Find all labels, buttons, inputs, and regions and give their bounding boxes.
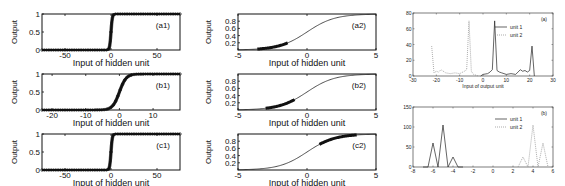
y-axis-label: Output [204, 139, 213, 164]
x-tick-label: 2 [512, 168, 515, 174]
x-tick-label: 30 [550, 77, 556, 83]
x-tick-label: 5 [374, 51, 379, 60]
y-axis-label: Output [204, 79, 213, 104]
y-tick-label: 0.5 [29, 88, 41, 97]
plot-frame [413, 13, 553, 76]
y-tick-label: 20 [406, 57, 412, 63]
y-axis-label: Output [10, 19, 19, 44]
x-axis-label: Input of hidden unit [73, 178, 150, 186]
data-point-cluster [319, 135, 356, 144]
x-tick-label: -5 [234, 171, 242, 180]
x-tick-label: 50 [153, 171, 162, 180]
x-tick-label: 20 [527, 77, 533, 83]
sigmoid-curve [238, 134, 376, 170]
panel-c1: -5005000.51Input of hidden unitOutput(c1… [10, 130, 181, 186]
plot-frame [413, 107, 553, 167]
x-axis-label: Input of hidden unit [269, 58, 346, 68]
x-tick-label: 6 [552, 168, 555, 174]
y-tick-label: 50 [406, 144, 412, 150]
y-tick-label: 0 [36, 106, 41, 115]
panel-b1: -20-1001000.51Input of hidden unitOutput… [10, 70, 181, 128]
x-axis-label: Input of output unit [462, 83, 504, 89]
x-axis-label: Input of hidden unit [269, 118, 346, 128]
y-tick-label: 0.5 [29, 28, 41, 37]
panel-label: (c1) [156, 141, 170, 150]
y-axis-label: Output [10, 79, 19, 104]
y-tick-label: 80 [406, 10, 412, 16]
y-tick-label: 40 [406, 42, 412, 48]
panel-a1: -5005000.51Input of hidden unitOutput(a1… [10, 10, 181, 68]
panel-label: (c2) [352, 141, 366, 150]
x-tick-label: -5 [234, 51, 242, 60]
data-curve [42, 74, 180, 110]
x-tick-label: -5 [234, 111, 242, 120]
series-unit-2 [518, 125, 548, 167]
panel-a2: -5050.20.40.60.8Input of hidden unitOutp… [204, 14, 379, 68]
legend-entry: unit 2 [510, 124, 522, 130]
panel-a: -30-20-100102030020406080Input of output… [406, 10, 556, 89]
x-tick-label: 5 [374, 171, 379, 180]
x-tick-label: 5 [374, 111, 379, 120]
series-unit-1 [423, 125, 463, 167]
y-tick-label: 0 [409, 164, 412, 170]
plot-frame [42, 74, 180, 110]
x-axis-label: Input of hidden unit [73, 58, 150, 68]
x-tick-label: 10 [504, 77, 510, 83]
x-tick-label: 10 [149, 111, 158, 120]
y-axis-label: Output [204, 19, 213, 44]
x-tick-label: -50 [59, 51, 71, 60]
y-tick-label: 1 [36, 10, 41, 19]
sigmoid-curve [238, 74, 376, 110]
data-point-cluster [266, 100, 295, 109]
series-unit-2 [432, 21, 479, 76]
y-tick-label: 150 [403, 104, 412, 110]
panel-b: -8-6-4-20246050100150(b)unit 1unit 2 [403, 104, 554, 174]
x-axis-label: Input of hidden unit [269, 178, 346, 186]
y-tick-label: 1 [36, 130, 41, 139]
panel-label: (a2) [352, 21, 367, 30]
panel-label: (b2) [352, 81, 367, 90]
series-unit-1 [481, 21, 535, 76]
y-tick-label: 0 [409, 73, 412, 79]
panel-label: (b1) [156, 81, 171, 90]
sigmoid-curve [238, 14, 376, 50]
x-tick-label: 4 [532, 168, 535, 174]
panel-label: (b) [541, 110, 547, 116]
y-tick-label: 0.8 [225, 77, 237, 86]
panel-c2: -5050.20.40.60.8Input of hidden unitOutp… [204, 134, 379, 186]
y-tick-label: 100 [403, 124, 412, 130]
y-tick-label: 0.5 [29, 148, 41, 157]
y-tick-label: 0 [36, 166, 41, 175]
y-tick-label: 1 [36, 70, 41, 79]
x-tick-label: -20 [433, 77, 440, 83]
y-tick-label: 0.8 [225, 137, 237, 146]
y-axis-label: Output [10, 139, 19, 164]
legend-entry: unit 1 [510, 116, 522, 122]
panel-label: (a) [541, 16, 547, 22]
legend-entry: unit 2 [510, 32, 522, 38]
x-tick-label: -20 [46, 111, 58, 120]
x-tick-label: -2 [471, 168, 476, 174]
x-tick-label: 50 [153, 51, 162, 60]
x-axis-label: Input of hidden unit [73, 118, 150, 128]
legend-entry: unit 1 [510, 24, 522, 30]
y-tick-label: 60 [406, 26, 412, 32]
x-tick-label: -50 [59, 171, 71, 180]
y-tick-label: 0 [36, 46, 41, 55]
panel-b2: -5050.20.40.60.8Input of hidden unitOutp… [204, 74, 379, 128]
data-point-cluster [257, 43, 287, 49]
y-tick-label: 0.8 [225, 17, 237, 26]
x-tick-label: 0 [492, 168, 495, 174]
panel-label: (a1) [156, 21, 171, 30]
x-tick-label: -4 [451, 168, 456, 174]
figure-canvas: -5005000.51Input of hidden unitOutput(a1… [0, 0, 565, 186]
x-tick-label: -6 [431, 168, 436, 174]
